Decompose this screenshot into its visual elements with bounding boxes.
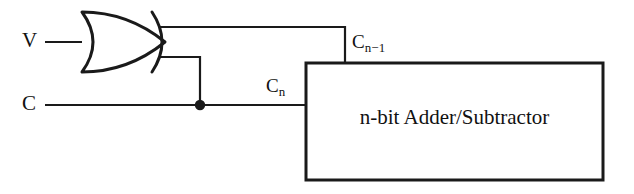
input-label-v: V: [22, 30, 37, 51]
wire-gate-to-junction: [160, 57, 200, 105]
wire-label-carry-n: Cn: [266, 76, 285, 99]
junction-dot: [195, 100, 205, 110]
wire-label-carry-n-subscript: n: [279, 84, 286, 99]
schematic-svg: [0, 0, 634, 194]
wire-label-carry-n-minus-1: Cn−1: [352, 32, 385, 55]
adder-subtractor-block-label: n-bit Adder/Subtractor: [306, 107, 603, 128]
wire-label-carry-n-minus-1-base: C: [352, 31, 365, 52]
xor-gate-body: [82, 12, 165, 72]
wire-label-carry-n-base: C: [266, 75, 279, 96]
circuit-diagram-canvas: V C Cn Cn−1 n-bit Adder/Subtractor: [0, 0, 634, 194]
wire-label-carry-n-minus-1-subscript: n−1: [365, 40, 386, 55]
input-label-c: C: [22, 93, 36, 114]
